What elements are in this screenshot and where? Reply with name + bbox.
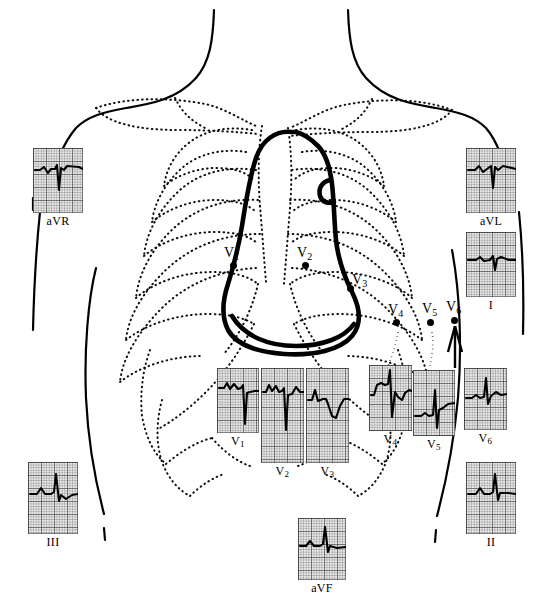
ecg-strip-label-v4: V4 (369, 432, 412, 447)
ecg-strip-avr: aVR (33, 148, 83, 213)
ecg-grid-paper (28, 462, 78, 534)
ecg-strip-v3: V3 (306, 368, 349, 463)
electrode-dot-v2[interactable] (302, 262, 309, 269)
ecg-strip-label-v3: V3 (306, 464, 349, 479)
ecg-strip-label-v5: V5 (413, 437, 455, 452)
ecg-strip-v4: V4 (369, 365, 412, 431)
ecg-waveform-trace (468, 256, 516, 270)
ecg-grid-paper (413, 370, 455, 436)
ecg-strip-avl: aVL (466, 148, 516, 213)
ecg-strip-label-v2: V2 (261, 464, 304, 479)
ecg-strip-label-avf: aVF (298, 581, 346, 596)
ecg-grid-paper (261, 368, 304, 463)
ecg-waveform-trace (30, 474, 78, 501)
ecg-strip-i: I (466, 232, 516, 297)
ecg-strip-label-avr: aVR (33, 214, 83, 229)
ecg-strip-label-ii: II (466, 535, 516, 550)
ecg-waveform-trace (468, 166, 516, 188)
ecg-grid-paper (466, 232, 516, 297)
ecg-grid-paper (33, 148, 83, 213)
ecg-waveform-trace (219, 383, 259, 424)
chest-anatomy-illustration (0, 0, 546, 605)
ecg-strip-label-avl: aVL (466, 214, 516, 229)
ecg-waveform-trace (371, 370, 412, 417)
ecg-strip-label-iii: III (28, 535, 78, 550)
ecg-waveform-trace (300, 527, 346, 552)
ecg-strip-label-v1: V1 (217, 434, 259, 449)
ecg-strip-v5: V5 (413, 370, 455, 436)
electrode-dot-v5[interactable] (427, 319, 434, 326)
ecg-grid-paper (466, 148, 516, 213)
ecg-lead-placement-figure: V1 V2 V3 V4 V5 V6 aVRaVLIIIIIIaVFV1V2V3V… (0, 0, 546, 605)
ecg-strip-v2: V2 (261, 368, 304, 463)
ecg-grid-paper (298, 518, 346, 580)
electrode-label-v5: V5 (422, 301, 437, 318)
electrode-label-v6: V6 (446, 299, 461, 316)
electrode-dot-v1[interactable] (230, 262, 237, 269)
electrode-label-v4: V4 (388, 302, 403, 319)
electrode-label-v2: V2 (297, 245, 312, 262)
ecg-grid-paper (466, 462, 516, 534)
ecg-strip-label-i: I (466, 298, 516, 313)
ecg-grid-paper (464, 368, 507, 430)
ecg-grid-paper (217, 368, 259, 433)
ecg-strip-iii: III (28, 462, 78, 534)
electrode-label-v3: V3 (352, 272, 367, 289)
ecg-grid-paper (369, 365, 412, 431)
ecg-grid-paper (306, 368, 349, 463)
ecg-strip-avf: aVF (298, 518, 346, 580)
ecg-strip-v6: V6 (464, 368, 507, 430)
electrode-dot-v4[interactable] (393, 319, 400, 326)
ecg-strip-v1: V1 (217, 368, 259, 433)
ecg-strip-ii: II (466, 462, 516, 534)
ecg-waveform-trace (35, 165, 83, 190)
electrode-label-v1: V1 (224, 245, 239, 262)
ecg-strip-label-v6: V6 (464, 431, 507, 446)
ecg-waveform-trace (468, 474, 516, 500)
ecg-waveform-trace (308, 390, 349, 418)
ecg-waveform-trace (466, 378, 507, 404)
ecg-waveform-trace (415, 390, 455, 428)
electrode-dot-v6[interactable] (451, 317, 458, 324)
ecg-waveform-trace (263, 385, 304, 430)
